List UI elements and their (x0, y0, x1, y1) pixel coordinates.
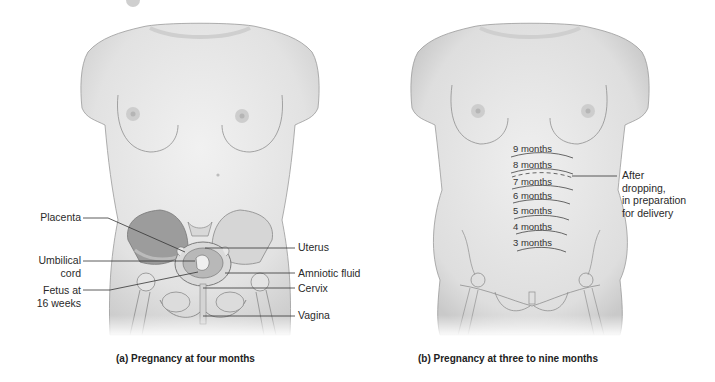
month-label-3: 3 months (513, 237, 552, 248)
label-fetus-line2: 16 weeks (14, 297, 81, 310)
after-dropping-line3: in preparation (622, 194, 686, 207)
after-dropping-line4: for delivery (622, 207, 686, 220)
month-label-4: 4 months (513, 221, 552, 232)
anatomy-illustration (0, 0, 715, 382)
month-label-8: 8 months (513, 159, 552, 170)
label-umbilical-cord-line1: Umbilical (14, 254, 81, 267)
label-uterus: Uterus (298, 241, 329, 254)
caption-panel-a: (a) Pregnancy at four months (116, 353, 255, 364)
caption-panel-b: (b) Pregnancy at three to nine months (418, 353, 598, 364)
label-fetus-line1: Fetus at (14, 284, 81, 297)
month-label-6: 6 months (513, 190, 552, 201)
label-cervix: Cervix (298, 282, 328, 295)
label-vagina: Vagina (298, 309, 330, 322)
after-dropping-line1: After (622, 169, 686, 182)
after-dropping-line2: dropping, (622, 182, 686, 195)
label-placenta: Placenta (24, 211, 81, 224)
month-label-9: 9 months (513, 143, 552, 154)
label-umbilical-cord: Umbilical cord (14, 254, 81, 280)
label-amniotic-fluid: Amniotic fluid (298, 267, 360, 280)
label-umbilical-cord-line2: cord (14, 267, 81, 280)
month-label-5: 5 months (513, 205, 552, 216)
label-after-dropping: After dropping, in preparation for deliv… (622, 169, 686, 219)
label-fetus: Fetus at 16 weeks (14, 284, 81, 310)
month-label-7: 7 months (513, 176, 552, 187)
